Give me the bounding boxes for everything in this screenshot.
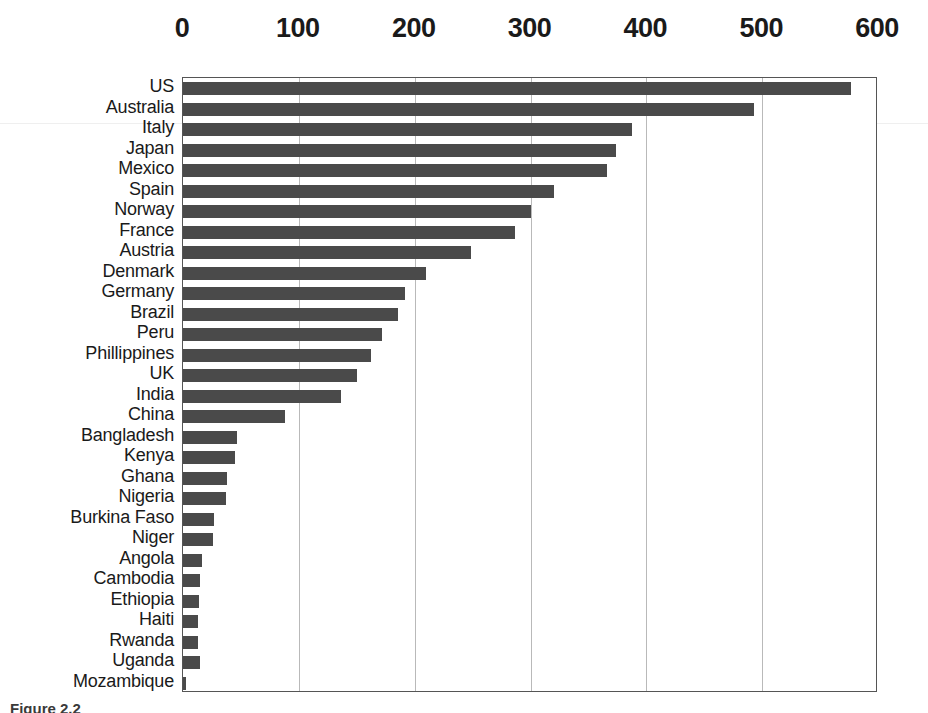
- bar: [183, 595, 199, 608]
- y-tick-label: Australia: [106, 98, 174, 118]
- bar-row: [183, 222, 876, 243]
- y-tick-label: India: [136, 385, 174, 405]
- y-tick-label: Cambodia: [94, 569, 174, 589]
- bar-row: [183, 263, 876, 284]
- plot-area: [182, 77, 877, 692]
- bar: [183, 308, 398, 321]
- bar-row: [183, 365, 876, 386]
- y-tick-label: Spain: [129, 180, 174, 200]
- y-tick-label: Mozambique: [73, 672, 174, 692]
- bar-row: [183, 632, 876, 653]
- y-tick-label: Phillippines: [85, 344, 174, 364]
- x-tick-label: 600: [855, 12, 899, 44]
- bar: [183, 287, 405, 300]
- bar-row: [183, 283, 876, 304]
- y-tick-label: Angola: [119, 549, 174, 569]
- bar: [183, 656, 200, 669]
- bar: [183, 226, 515, 239]
- bar-row: [183, 160, 876, 181]
- y-tick-label: Uganda: [112, 651, 174, 671]
- bar-row: [183, 509, 876, 530]
- bar-chart: 0100200300400500600 USAustraliaItalyJapa…: [0, 0, 928, 713]
- bar-row: [183, 181, 876, 202]
- bar-row: [183, 140, 876, 161]
- bar: [183, 328, 382, 341]
- bar-row: [183, 201, 876, 222]
- bar: [183, 103, 754, 116]
- bar: [183, 574, 200, 587]
- bar: [183, 185, 554, 198]
- bar: [183, 636, 198, 649]
- bar-row: [183, 99, 876, 120]
- bar-row: [183, 119, 876, 140]
- bar-row: [183, 304, 876, 325]
- y-tick-label: Norway: [114, 200, 174, 220]
- bar-row: [183, 427, 876, 448]
- x-tick-label: 400: [624, 12, 668, 44]
- bar-row: [183, 550, 876, 571]
- bar: [183, 533, 213, 546]
- y-tick-label: Ghana: [121, 467, 174, 487]
- y-tick-label: Japan: [126, 139, 174, 159]
- bar-row: [183, 242, 876, 263]
- y-tick-label: Denmark: [102, 262, 174, 282]
- y-tick-label: China: [128, 405, 174, 425]
- bar: [183, 410, 285, 423]
- y-tick-label: Burkina Faso: [70, 508, 174, 528]
- bar-row: [183, 447, 876, 468]
- bar: [183, 677, 186, 690]
- bar: [183, 492, 226, 505]
- bar-row: [183, 611, 876, 632]
- bar-row: [183, 78, 876, 99]
- bar: [183, 123, 632, 136]
- bar-row: [183, 529, 876, 550]
- x-tick-label: 500: [739, 12, 783, 44]
- y-tick-label: Italy: [142, 118, 174, 138]
- bar: [183, 267, 426, 280]
- bar-row: [183, 468, 876, 489]
- y-tick-label: Mexico: [118, 159, 174, 179]
- y-tick-label: US: [149, 77, 174, 97]
- bar-row: [183, 591, 876, 612]
- bar: [183, 144, 616, 157]
- bar: [183, 431, 237, 444]
- y-tick-label: France: [119, 221, 174, 241]
- bar: [183, 390, 341, 403]
- y-tick-label: UK: [149, 364, 174, 384]
- bar: [183, 615, 198, 628]
- x-tick-label: 0: [175, 12, 190, 44]
- bar-row: [183, 570, 876, 591]
- bar: [183, 369, 357, 382]
- y-tick-label: Rwanda: [109, 631, 174, 651]
- bar: [183, 246, 471, 259]
- bar-row: [183, 406, 876, 427]
- y-tick-label: Niger: [132, 528, 174, 548]
- figure-caption: Figure 2.2: [10, 701, 81, 713]
- y-tick-label: Haiti: [139, 610, 174, 630]
- bar-row: [183, 324, 876, 345]
- bar-row: [183, 673, 876, 693]
- bar: [183, 82, 851, 95]
- y-tick-label: Kenya: [124, 446, 174, 466]
- x-tick-label: 300: [508, 12, 552, 44]
- y-axis-category-labels: USAustraliaItalyJapanMexicoSpainNorwayFr…: [0, 77, 178, 692]
- x-tick-label: 200: [392, 12, 436, 44]
- y-tick-label: Brazil: [130, 303, 174, 323]
- x-axis-tick-labels: 0100200300400500600: [0, 12, 928, 56]
- bar: [183, 472, 227, 485]
- bar-row: [183, 386, 876, 407]
- bar: [183, 349, 371, 362]
- bar: [183, 554, 202, 567]
- y-tick-label: Austria: [119, 241, 174, 261]
- y-tick-label: Ethiopia: [111, 590, 174, 610]
- bar: [183, 451, 235, 464]
- y-tick-label: Bangladesh: [81, 426, 174, 446]
- bar-row: [183, 488, 876, 509]
- bar-row: [183, 652, 876, 673]
- x-tick-label: 100: [276, 12, 320, 44]
- y-tick-label: Peru: [137, 323, 174, 343]
- bar: [183, 164, 607, 177]
- bar: [183, 513, 214, 526]
- y-tick-label: Germany: [101, 282, 174, 302]
- bar-row: [183, 345, 876, 366]
